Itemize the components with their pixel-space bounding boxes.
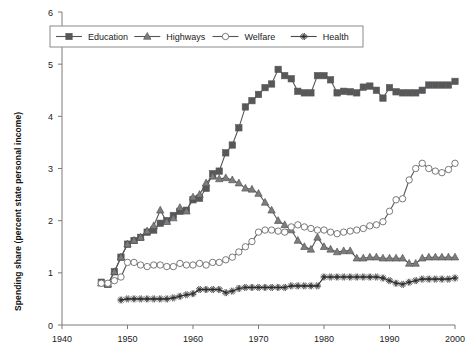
data-point-filled-square — [282, 72, 288, 78]
data-point-filled-square — [321, 72, 327, 78]
data-point-filled-triangle — [392, 254, 399, 261]
data-point-open-circle — [236, 249, 242, 255]
data-point-filled-triangle — [405, 259, 412, 266]
data-point-filled-square — [334, 90, 340, 96]
data-point-filled-square — [373, 87, 379, 93]
data-point-open-circle — [393, 197, 399, 203]
data-point-filled-square — [367, 83, 373, 89]
data-point-filled-triangle — [451, 253, 458, 260]
data-point-filled-square — [288, 76, 294, 82]
data-point-asterisk — [412, 277, 419, 284]
x-tick-label: 1970 — [248, 334, 268, 344]
data-point-open-circle — [170, 263, 176, 269]
data-point-open-circle — [268, 227, 274, 233]
data-point-filled-triangle — [235, 179, 242, 186]
y-tick-label: 4 — [48, 112, 53, 122]
data-point-filled-square — [301, 90, 307, 96]
data-point-open-circle — [380, 219, 386, 225]
data-point-filled-square — [354, 90, 360, 96]
data-point-filled-triangle — [222, 174, 229, 181]
data-point-asterisk — [222, 289, 229, 296]
data-point-open-circle — [340, 229, 346, 235]
data-point-open-circle — [249, 238, 255, 244]
data-point-filled-triangle — [281, 221, 288, 228]
data-point-asterisk — [176, 293, 183, 300]
data-point-open-circle — [196, 260, 202, 266]
data-point-filled-square — [439, 82, 445, 88]
data-point-open-circle — [426, 165, 432, 171]
data-point-open-circle — [321, 227, 327, 233]
chart-legend: EducationHighwaysWelfareHealth — [50, 26, 363, 47]
data-point-open-circle — [203, 262, 209, 268]
data-point-open-circle — [190, 262, 196, 268]
data-point-open-circle — [373, 222, 379, 228]
data-point-filled-triangle — [255, 190, 262, 197]
data-point-open-circle — [282, 229, 288, 235]
x-tick-label: 1990 — [379, 334, 399, 344]
data-point-open-circle — [98, 280, 104, 286]
data-point-filled-triangle — [438, 253, 445, 260]
data-point-open-circle — [308, 225, 314, 231]
data-point-open-circle — [118, 274, 124, 280]
data-point-filled-triangle — [347, 247, 354, 254]
data-point-open-circle — [229, 254, 235, 260]
data-point-filled-triangle — [412, 259, 419, 266]
data-point-filled-triangle — [294, 236, 301, 243]
legend-label: Highways — [166, 32, 206, 42]
data-point-filled-triangle — [242, 184, 249, 191]
data-point-asterisk — [386, 277, 393, 284]
data-point-open-circle — [177, 260, 183, 266]
y-axis-ticks — [58, 12, 62, 325]
x-tick-label: 1940 — [52, 334, 72, 344]
data-point-filled-square — [314, 72, 320, 78]
legend-label: Education — [88, 32, 128, 42]
data-point-open-circle — [242, 244, 248, 250]
line-chart-plot: 0123456 1940195019601970198019902000 Edu… — [0, 0, 466, 361]
data-point-filled-square — [432, 82, 438, 88]
data-point-open-circle — [111, 277, 117, 283]
x-tick-label: 1980 — [314, 334, 334, 344]
data-point-open-circle — [209, 259, 215, 265]
data-point-open-circle — [216, 259, 222, 265]
data-point-open-circle — [183, 262, 189, 268]
data-point-filled-triangle — [386, 254, 393, 261]
data-point-open-circle — [445, 166, 451, 172]
data-point-filled-square — [360, 84, 366, 90]
y-tick-label: 2 — [48, 216, 53, 226]
data-point-open-circle — [275, 228, 281, 234]
data-point-open-circle — [262, 227, 268, 233]
data-point-filled-square — [66, 33, 72, 39]
data-point-filled-square — [255, 91, 261, 97]
data-point-open-circle — [164, 263, 170, 269]
data-point-open-circle — [295, 222, 301, 228]
data-point-filled-triangle — [432, 253, 439, 260]
data-point-open-circle — [406, 177, 412, 183]
data-point-open-circle — [413, 165, 419, 171]
data-point-filled-square — [340, 88, 346, 94]
data-series-layer — [98, 66, 459, 303]
data-point-open-circle — [314, 227, 320, 233]
x-tick-label: 1960 — [183, 334, 203, 344]
data-point-filled-square — [426, 82, 432, 88]
data-point-open-circle — [432, 168, 438, 174]
data-point-open-circle — [439, 169, 445, 175]
data-point-open-circle — [144, 263, 150, 269]
data-point-open-circle — [137, 262, 143, 268]
data-point-filled-square — [229, 142, 235, 148]
data-point-filled-square — [236, 125, 242, 131]
data-point-open-circle — [255, 229, 261, 235]
data-point-open-circle — [354, 227, 360, 233]
data-point-filled-square — [380, 95, 386, 101]
data-point-filled-square — [399, 90, 405, 96]
data-point-open-circle — [360, 225, 366, 231]
data-point-filled-square — [327, 77, 333, 83]
y-tick-label: 0 — [48, 321, 53, 331]
data-point-filled-triangle — [150, 222, 157, 229]
data-point-filled-square — [295, 88, 301, 94]
x-tick-label: 1950 — [117, 334, 137, 344]
data-point-filled-triangle — [425, 253, 432, 260]
data-point-open-circle — [301, 224, 307, 230]
chart-container: 0123456 1940195019601970198019902000 Edu… — [0, 0, 466, 361]
data-point-open-circle — [347, 228, 353, 234]
data-point-filled-square — [275, 66, 281, 72]
